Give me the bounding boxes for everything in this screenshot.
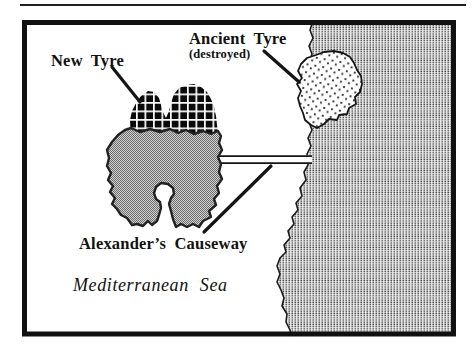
alexanders-causeway-label: Alexander’s Causeway [79, 235, 248, 252]
causeway-bridge [213, 155, 312, 163]
mediterranean-sea-label: Mediterranean Sea [73, 276, 228, 295]
ancient-tyre-title: Ancient Tyre [189, 29, 287, 48]
new-tyre-label: New Tyre [51, 52, 124, 69]
ancient-tyre-note: (destroyed) [189, 48, 287, 61]
map-figure: New Tyre Ancient Tyre (destroyed) Alexan… [0, 0, 472, 355]
ancient-tyre-label: Ancient Tyre (destroyed) [189, 30, 287, 61]
